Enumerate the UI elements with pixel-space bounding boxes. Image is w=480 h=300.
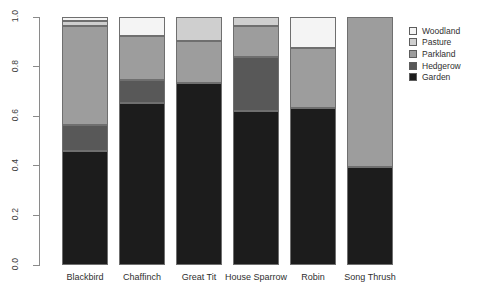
legend-item: Parkland xyxy=(409,48,461,60)
bar-segment-pasture xyxy=(176,17,222,41)
y-axis-tick-label: 0.6 xyxy=(10,100,20,130)
y-axis-tick-label: 1.0 xyxy=(10,1,20,31)
bar-segment-woodland xyxy=(119,17,165,36)
bar-segment-garden xyxy=(176,83,222,265)
y-axis-tick xyxy=(33,215,39,216)
bar-segment-parkland xyxy=(119,36,165,81)
legend-label: Pasture xyxy=(422,37,451,47)
legend-label: Woodland xyxy=(422,26,460,36)
bar-segment-woodland xyxy=(62,17,108,21)
bar-segment-woodland xyxy=(290,17,336,48)
stacked-bar xyxy=(347,17,393,265)
legend-label: Garden xyxy=(422,72,450,82)
y-axis-tick-label: 0.0 xyxy=(10,249,20,279)
chart-legend: WoodlandPastureParklandHedgerowGarden xyxy=(409,25,461,83)
y-axis-tick-label: 0.8 xyxy=(10,51,20,81)
legend-label: Hedgerow xyxy=(422,61,461,71)
bar-segment-garden xyxy=(119,103,165,265)
legend-item: Garden xyxy=(409,71,461,83)
legend-swatch-icon xyxy=(409,50,417,58)
y-axis-tick xyxy=(33,17,39,18)
legend-item: Hedgerow xyxy=(409,60,461,72)
y-axis-tick-label: 0.4 xyxy=(10,150,20,180)
legend-swatch-icon xyxy=(409,38,417,46)
stacked-bar xyxy=(119,17,165,265)
stacked-bar xyxy=(176,17,222,265)
stacked-bar xyxy=(233,17,279,265)
bar-segment-garden xyxy=(347,167,393,265)
bar-segment-garden xyxy=(290,108,336,265)
bar-segment-parkland xyxy=(290,48,336,108)
legend-item: Pasture xyxy=(409,37,461,49)
y-axis-tick xyxy=(33,116,39,117)
bar-segment-garden xyxy=(62,151,108,265)
stacked-bar xyxy=(290,17,336,265)
bar-segment-hedgerow xyxy=(62,125,108,151)
stacked-bar xyxy=(62,17,108,265)
y-axis-tick xyxy=(33,66,39,67)
legend-swatch-icon xyxy=(409,27,417,35)
bar-segment-pasture xyxy=(233,17,279,26)
y-axis-tick-label: 0.2 xyxy=(10,199,20,229)
bar-segment-parkland xyxy=(62,26,108,125)
legend-swatch-icon xyxy=(409,73,417,81)
legend-item: Woodland xyxy=(409,25,461,37)
stacked-bar-chart: WoodlandPastureParklandHedgerowGarden 0.… xyxy=(0,0,480,300)
y-axis-tick xyxy=(33,265,39,266)
bar-segment-hedgerow xyxy=(119,80,165,102)
legend-label: Parkland xyxy=(422,49,456,59)
y-axis-tick xyxy=(33,165,39,166)
plot-area xyxy=(40,17,388,265)
x-axis-label: Song Thrush xyxy=(320,272,420,282)
bar-segment-pasture xyxy=(62,21,108,26)
bar-segment-parkland xyxy=(233,26,279,57)
bar-segment-hedgerow xyxy=(233,57,279,112)
legend-swatch-icon xyxy=(409,62,417,70)
bar-segment-parkland xyxy=(176,41,222,83)
bar-segment-parkland xyxy=(347,17,393,167)
bar-segment-garden xyxy=(233,111,279,265)
